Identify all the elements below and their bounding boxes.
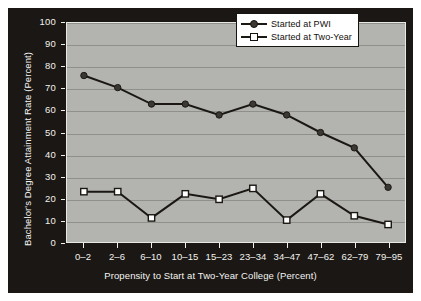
y-axis-tick-label: 30 — [30, 172, 56, 182]
y-axis-tick-label: 80 — [30, 61, 56, 71]
y-axis-tick-mark — [61, 221, 65, 222]
y-axis-tick-mark — [61, 243, 65, 244]
x-axis-tick-mark — [117, 243, 118, 248]
data-point-circle — [216, 112, 222, 118]
data-point-circle — [351, 145, 357, 151]
data-point-circle — [385, 184, 391, 190]
plot-area — [66, 22, 406, 243]
x-axis-tick-mark — [185, 243, 186, 248]
series-plot — [67, 23, 405, 242]
data-point-circle — [115, 84, 121, 90]
legend-item-pwi: Started at PWI — [241, 17, 352, 30]
y-axis-tick-label: 90 — [30, 39, 56, 49]
series-line — [84, 76, 388, 188]
y-axis-tick-mark — [61, 44, 65, 45]
data-point-circle — [148, 101, 154, 107]
data-point-circle — [182, 101, 188, 107]
y-axis-tick-label: 20 — [30, 194, 56, 204]
y-axis-tick-mark — [61, 110, 65, 111]
y-axis-tick-mark — [61, 22, 65, 23]
y-axis-tick-label: 0 — [30, 238, 56, 248]
y-axis-tick-label: 40 — [30, 150, 56, 160]
circle-marker-icon — [241, 18, 267, 30]
data-point-square — [148, 215, 154, 221]
x-axis-tick-mark — [253, 243, 254, 248]
data-point-square — [216, 196, 222, 202]
y-axis-tick-mark — [61, 199, 65, 200]
data-point-circle — [317, 129, 323, 135]
x-axis-tick-label: 79–95 — [367, 251, 411, 262]
chart-legend: Started at PWI Started at Two-Year — [236, 13, 359, 47]
y-axis-tick-label: 10 — [30, 216, 56, 226]
legend-label-pwi: Started at PWI — [271, 19, 331, 29]
x-axis-tick-mark — [355, 243, 356, 248]
y-axis-tick-label: 50 — [30, 128, 56, 138]
data-point-square — [115, 188, 121, 194]
y-axis-tick-mark — [61, 133, 65, 134]
x-axis-tick-mark — [287, 243, 288, 248]
legend-label-two-year: Started at Two-Year — [271, 32, 352, 42]
chart-frame: Bachelor's Degree Attainment Rate (Perce… — [8, 8, 413, 293]
x-axis-tick-mark — [83, 243, 84, 248]
legend-item-two-year: Started at Two-Year — [241, 30, 352, 43]
x-axis-tick-mark — [321, 243, 322, 248]
data-point-square — [250, 185, 256, 191]
y-axis-tick-mark — [61, 66, 65, 67]
y-axis-tick-mark — [61, 177, 65, 178]
y-axis-tick-label: 100 — [30, 17, 56, 27]
chart-figure: Bachelor's Degree Attainment Rate (Perce… — [0, 0, 421, 301]
square-marker-icon — [241, 31, 267, 43]
x-axis-tick-mark — [219, 243, 220, 248]
data-point-square — [182, 191, 188, 197]
data-point-square — [317, 191, 323, 197]
y-axis-tick-label: 60 — [30, 105, 56, 115]
data-point-square — [351, 213, 357, 219]
data-point-circle — [81, 72, 87, 78]
y-axis-tick-mark — [61, 88, 65, 89]
data-point-circle — [250, 101, 256, 107]
data-point-square — [81, 188, 87, 194]
x-axis-tick-mark — [151, 243, 152, 248]
x-axis-title: Propensity to Start at Two-Year College … — [8, 270, 413, 281]
y-axis-tick-label: 70 — [30, 83, 56, 93]
x-axis-tick-mark — [389, 243, 390, 248]
data-point-square — [284, 217, 290, 223]
series-line — [84, 188, 388, 224]
y-axis-tick-mark — [61, 155, 65, 156]
data-point-circle — [284, 112, 290, 118]
data-point-square — [385, 221, 391, 227]
